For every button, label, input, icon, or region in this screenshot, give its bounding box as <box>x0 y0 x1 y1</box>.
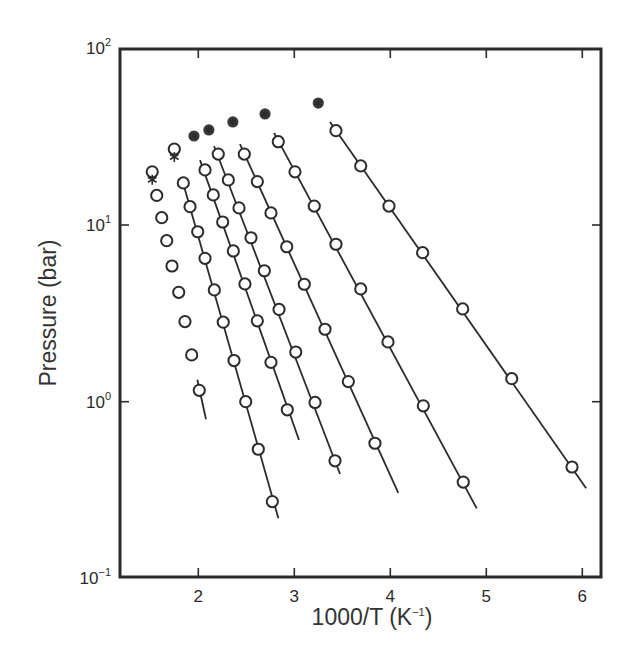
y-axis-ticks: 10−1100101102 <box>80 36 601 588</box>
data-point <box>223 174 234 185</box>
critical-point <box>259 108 270 119</box>
data-point <box>217 216 228 227</box>
critical-point <box>227 116 238 127</box>
data-series <box>213 148 341 466</box>
y-tick-label: 10−1 <box>80 566 111 588</box>
y-tick-label: 101 <box>86 213 111 235</box>
vapor-pressure-chart: 23456 10−1100101102 1000/T (K−1) Pressur… <box>0 0 634 661</box>
data-point <box>239 278 250 289</box>
x-tick-label: 3 <box>290 587 299 606</box>
data-point <box>382 336 393 347</box>
data-series <box>151 190 205 396</box>
data-point <box>265 207 276 218</box>
data-point <box>239 148 250 159</box>
data-point <box>369 438 380 449</box>
data-point <box>253 444 264 455</box>
data-point <box>309 397 320 408</box>
data-point <box>213 148 224 159</box>
data-point <box>245 232 256 243</box>
data-point <box>252 176 263 187</box>
data-point <box>289 166 300 177</box>
x-tick-label: 6 <box>578 587 587 606</box>
fit-line <box>274 133 477 508</box>
data-point <box>273 136 284 147</box>
data-point <box>199 164 210 175</box>
data-point <box>228 355 239 366</box>
data-point <box>330 125 341 136</box>
data-point <box>273 304 284 315</box>
data-point <box>282 404 293 415</box>
data-point <box>330 239 341 250</box>
data-point <box>290 346 301 357</box>
data-point <box>209 284 220 295</box>
data-point <box>218 317 229 328</box>
data-point <box>259 265 270 276</box>
x-axis-title: 1000/T (K−1) <box>312 604 433 630</box>
data-point <box>267 496 278 507</box>
data-point <box>194 385 205 396</box>
data-point <box>186 349 197 360</box>
x-axis-title-superscript: −1 <box>412 606 425 618</box>
data-point <box>179 316 190 327</box>
y-tick-label: 100 <box>86 390 111 412</box>
plot-frame <box>120 49 601 577</box>
data-point <box>329 455 340 466</box>
data-point <box>355 283 366 294</box>
y-axis-title: Pressure (bar) <box>35 240 61 387</box>
data-point <box>457 303 468 314</box>
data-point <box>161 235 172 246</box>
data-point <box>343 376 354 387</box>
data-point <box>151 190 162 201</box>
data-point <box>199 253 210 264</box>
data-point <box>228 245 239 256</box>
data-point <box>309 200 320 211</box>
fit-lines <box>183 122 586 518</box>
critical-point <box>147 166 158 185</box>
critical-point <box>188 130 199 141</box>
critical-point <box>313 97 324 108</box>
data-point <box>417 247 428 258</box>
data-point <box>184 201 195 212</box>
critical-point <box>169 143 180 162</box>
data-point <box>418 400 429 411</box>
data-point <box>458 476 469 487</box>
data-point <box>208 189 219 200</box>
data-point <box>156 212 167 223</box>
x-tick-label: 5 <box>482 587 491 606</box>
data-point <box>173 287 184 298</box>
data-point <box>319 324 330 335</box>
data-point <box>240 396 251 407</box>
data-point <box>299 279 310 290</box>
data-point <box>281 241 292 252</box>
x-axis-title-main: 1000/T (K <box>312 604 413 630</box>
data-point <box>383 200 394 211</box>
data-point <box>355 160 366 171</box>
data-point <box>506 373 517 384</box>
x-axis-ticks: 23456 <box>194 49 587 606</box>
data-point <box>178 177 189 188</box>
data-point <box>252 315 263 326</box>
x-axis-title-end: ) <box>425 604 433 630</box>
y-tick-label: 102 <box>86 36 111 58</box>
data-point <box>166 260 177 271</box>
data-point <box>566 461 577 472</box>
data-point <box>192 226 203 237</box>
data-point <box>265 357 276 368</box>
data-point <box>233 202 244 213</box>
x-tick-label: 2 <box>194 587 203 606</box>
critical-point <box>203 124 214 135</box>
data-points <box>151 125 577 507</box>
